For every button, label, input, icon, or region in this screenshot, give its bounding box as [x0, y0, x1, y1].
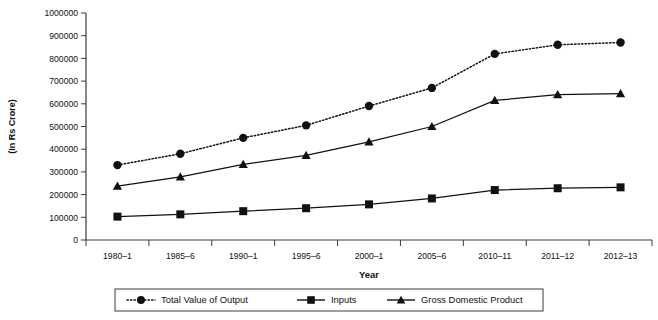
x-axis-tick-label: 2011–12 [541, 251, 574, 261]
square-marker [491, 186, 499, 194]
circle-marker [113, 161, 121, 169]
circle-marker [302, 121, 310, 129]
square-marker [365, 200, 373, 208]
x-axis-tick-label: 2005–6 [418, 251, 447, 261]
square-marker [617, 183, 625, 191]
x-axis-tick-label: 2000–1 [355, 251, 384, 261]
square-marker [428, 194, 436, 202]
legend-item[interactable]: Inputs [297, 294, 357, 305]
line-chart: 0100000200000300000400000500000600000700… [0, 0, 658, 320]
x-axis-tick-label: 1980–1 [103, 251, 132, 261]
y-axis-tick-label: 400000 [49, 144, 78, 154]
circle-marker [491, 50, 499, 58]
series-2 [113, 183, 624, 220]
square-marker [176, 210, 184, 218]
y-axis-tick-label: 200000 [49, 190, 78, 200]
y-axis-tick-label: 0 [73, 235, 78, 245]
y-axis-tick-label: 800000 [49, 54, 78, 64]
square-marker [113, 213, 121, 221]
circle-marker [176, 150, 184, 158]
x-axis-tick-label: 2012–13 [604, 251, 638, 261]
x-axis-tick-label: 2010–11 [478, 251, 511, 261]
series-1 [113, 38, 625, 169]
square-marker [307, 296, 315, 304]
circle-marker [365, 102, 373, 110]
square-marker [239, 207, 247, 215]
square-marker [554, 184, 562, 192]
triangle-marker [427, 122, 436, 130]
x-axis-tick-label: 1985–6 [166, 251, 195, 261]
y-axis-title: (In Rs Crore) [7, 99, 17, 154]
y-axis-tick-label: 1000000 [45, 8, 79, 18]
x-axis-title: Year [359, 269, 379, 280]
y-axis-tick-label: 900000 [49, 31, 78, 41]
circle-marker [137, 296, 145, 304]
circle-marker [616, 38, 624, 46]
y-axis-tick-label: 300000 [49, 167, 78, 177]
y-axis-tick-label: 100000 [49, 213, 78, 223]
x-axis-tick-label: 1990–1 [229, 251, 258, 261]
circle-marker [428, 84, 436, 92]
x-axis-tick-label: 1995–6 [292, 251, 321, 261]
y-axis-tick-label: 500000 [49, 122, 78, 132]
legend-item[interactable]: Total Value of Output [127, 294, 248, 305]
y-axis-tick-label: 600000 [49, 99, 78, 109]
y-axis-tick-label: 700000 [49, 76, 78, 86]
legend-label: Total Value of Output [161, 294, 248, 305]
circle-marker [553, 41, 561, 49]
chart-container: 0100000200000300000400000500000600000700… [0, 0, 658, 320]
legend-label: Gross Domestic Product [421, 294, 523, 305]
legend-label: Inputs [331, 294, 357, 305]
square-marker [302, 204, 310, 212]
circle-marker [239, 134, 247, 142]
legend-item[interactable]: Gross Domestic Product [387, 294, 523, 305]
